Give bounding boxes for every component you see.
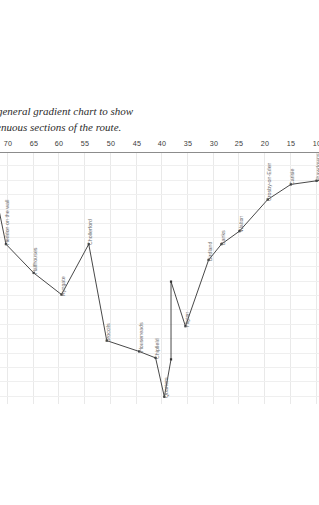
data-point-label: Chipfield <box>154 338 160 359</box>
x-axis-tick-label: 30 <box>210 139 218 148</box>
rotated-chart-container: 0204060801001201401601802002202402602803… <box>0 0 319 505</box>
data-point-label: Ryngate <box>60 276 66 296</box>
data-point-label: Heddon on the wall <box>4 200 10 245</box>
x-axis-tick-label: 25 <box>235 139 243 148</box>
x-axis-tick-label: 50 <box>107 139 115 148</box>
plot-area: Stowes-on-SovilBurgh-on-StockShawdownsCa… <box>0 152 319 404</box>
x-axis-tick-label: 70 <box>4 139 12 148</box>
data-point-label: Broccils <box>105 323 111 342</box>
data-point-label: Birdland <box>207 242 213 261</box>
data-point-marker <box>170 358 172 360</box>
data-point-label: Higton <box>184 312 190 327</box>
x-axis-tick-label: 35 <box>184 139 192 148</box>
caption-line-2: the strenuous sections of the route. <box>0 120 160 136</box>
data-point-label: Carisie <box>289 169 295 185</box>
data-point-label: Walton <box>238 216 244 232</box>
chart-caption: This is a general gradient chart to show… <box>0 104 160 136</box>
x-axis-tick-label: 40 <box>158 139 166 148</box>
x-axis-tick-label: 55 <box>81 139 89 148</box>
data-point-marker <box>170 281 172 283</box>
chart-page: 0204060801001201401601802002202402602803… <box>0 0 319 505</box>
data-point-label: Quarters <box>163 377 169 398</box>
data-point-label: Banks <box>220 230 226 245</box>
x-axis-tick-label: 10 <box>312 139 319 148</box>
data-point-label: Chollerford <box>87 219 93 245</box>
data-point-label: Halfhouses <box>32 247 38 274</box>
x-axis-tick-label: 20 <box>261 139 269 148</box>
x-axis-tick-label: 45 <box>132 139 140 148</box>
data-point-label: Houseneads <box>138 323 144 353</box>
chart-upright-frame: 0204060801001201401601802002202402602803… <box>0 93 319 412</box>
data-point-label: Crosby-on-Eden <box>266 162 272 201</box>
x-axis-tick-label: 65 <box>30 139 38 148</box>
caption-line-1: This is a general gradient chart to show <box>0 104 160 120</box>
x-axis-tick-label: 15 <box>287 139 295 148</box>
data-point-label: Shawdowns <box>315 153 319 182</box>
x-axis-tick-label: 60 <box>55 139 63 148</box>
